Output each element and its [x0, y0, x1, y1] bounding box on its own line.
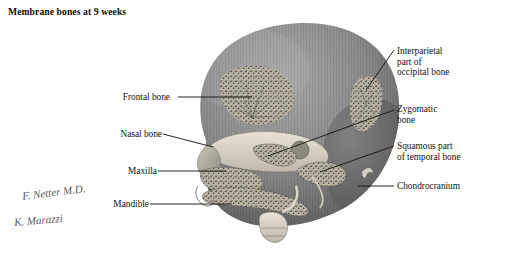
label-mandible: Mandible	[57, 199, 149, 210]
label-interparietal-occipital: Interparietal part of occipital bone	[397, 46, 449, 78]
label-chondrocranium: Chondrocranium	[397, 181, 460, 192]
label-zygomatic-bone: Zygomatic bone	[397, 104, 437, 125]
label-frontal-bone: Frontal bone	[78, 92, 170, 103]
label-nasal-bone: Nasal bone	[70, 129, 162, 140]
label-squamous-temporal: Squamous part of temporal bone	[397, 141, 461, 162]
illustration-plate: Membrane bones at 9 weeks	[0, 0, 511, 258]
hyoid-shape	[259, 212, 287, 242]
label-maxilla: Maxilla	[65, 166, 157, 177]
